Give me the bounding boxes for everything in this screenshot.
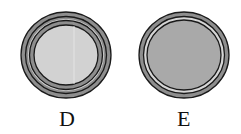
- circle-d: [21, 12, 111, 98]
- label-e: E: [177, 108, 190, 130]
- circle-e: [139, 12, 229, 98]
- diagram-canvas: [0, 0, 241, 134]
- label-d: D: [59, 108, 75, 130]
